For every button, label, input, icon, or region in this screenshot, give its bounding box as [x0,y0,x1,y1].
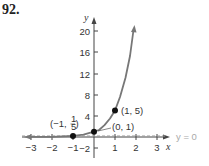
svg-text:(−1,: (−1, [50,118,67,129]
x-axis-arrow-icon [163,135,170,140]
y-tick-label: −2 [79,143,90,154]
svg-text:): ) [76,118,79,129]
point-label-0-1: (0, 1) [112,121,134,132]
y-tick-label: 20 [79,26,90,37]
y-axis-label: y [83,12,89,23]
x-tick-label: −1 [68,142,79,153]
point-neg1 [70,133,76,139]
curve-left-arrow-icon [24,135,31,140]
y-tick-label: 4 [85,111,90,122]
y-tick-label: 8 [85,90,90,101]
y-axis-arrow-icon [92,17,97,24]
y-tick-label: 12 [79,69,90,80]
point-1 [112,108,118,114]
asymptote-label: y = 0 [176,131,197,142]
x-tick-label: −3 [26,142,37,153]
curve-arrow-icon [131,25,137,33]
y-tick-label: 16 [79,47,90,58]
point-0 [91,129,97,135]
x-axis-label: x [165,141,171,152]
x-tick-label: 3 [154,142,159,153]
point-label-neg1-fifth: (−1, 1 5 ) [50,113,79,132]
x-tick-label: 2 [133,142,138,153]
graph: −3 −2 −1 1 2 3 x 20 16 12 8 4 −2 y y = 0… [0,0,209,166]
x-tick-label: 1 [112,142,117,153]
point-label-1-5: (1, 5) [121,105,143,116]
x-tick-label: −2 [47,142,58,153]
